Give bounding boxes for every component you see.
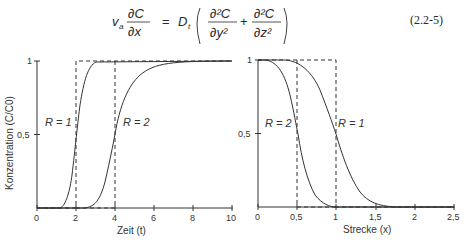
svg-text:2: 2 (412, 212, 417, 222)
right-tick-labels: 1 0,5 0 0,5 1 1,5 2 2,5 (238, 55, 460, 222)
left-chart (34, 61, 233, 211)
svg-text:2,5: 2,5 (447, 212, 460, 222)
svg-text:1,5: 1,5 (369, 212, 382, 222)
left-r2-curve (37, 61, 232, 208)
svg-text:4: 4 (112, 213, 117, 223)
right-annotation-r2: R = 2 (265, 117, 292, 129)
left-annotation-r2: R = 2 (123, 116, 150, 128)
left-y-label: Konzentration (C/C0) (4, 96, 15, 190)
right-chart (255, 60, 455, 210)
svg-text:0,5: 0,5 (290, 212, 303, 222)
svg-text:0: 0 (255, 212, 260, 222)
svg-text:2: 2 (73, 213, 78, 223)
svg-text:0,5: 0,5 (238, 129, 251, 139)
left-x-label: Zeit (t) (117, 225, 146, 236)
right-annotation-r1: R = 1 (338, 117, 365, 129)
svg-text:0: 0 (34, 213, 39, 223)
right-r1-curve (258, 60, 454, 207)
left-r1-plug (37, 61, 232, 208)
svg-text:1: 1 (27, 56, 32, 66)
charts: 1 0,5 0 2 4 6 8 10 Zeit (t) Konzentratio… (0, 0, 465, 241)
svg-text:6: 6 (151, 213, 156, 223)
svg-text:0,5: 0,5 (17, 130, 30, 140)
left-r2-plug (76, 61, 115, 208)
svg-text:8: 8 (190, 213, 195, 223)
left-r1-curve (37, 61, 232, 208)
svg-text:1: 1 (333, 212, 338, 222)
svg-text:10: 10 (226, 213, 236, 223)
svg-text:1: 1 (247, 55, 252, 65)
left-annotation-r1: R = 1 (45, 116, 72, 128)
left-tick-labels: 1 0,5 0 2 4 6 8 10 (17, 56, 236, 223)
right-x-label: Strecke (x) (343, 224, 391, 235)
